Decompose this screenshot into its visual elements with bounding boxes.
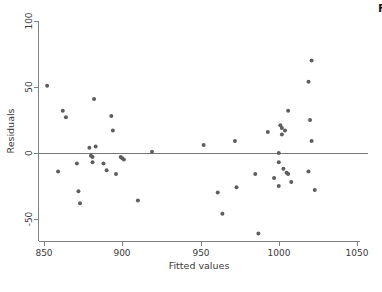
data-point (253, 172, 257, 176)
data-point (75, 162, 79, 166)
data-point (56, 169, 60, 173)
data-point (105, 168, 109, 172)
y-tick-label: 100 (24, 12, 34, 29)
data-point (313, 188, 317, 192)
data-point (266, 130, 270, 134)
data-point (109, 114, 113, 118)
data-point (289, 180, 293, 184)
data-point (283, 129, 287, 133)
data-point (150, 150, 154, 154)
data-point (136, 199, 140, 203)
x-axis-ticks (45, 242, 358, 247)
data-point (220, 212, 224, 216)
data-point (277, 151, 281, 155)
y-tick-label: 50 (24, 81, 34, 93)
data-point (91, 160, 95, 164)
residual-scatter-plot: -50050100 85090095010001050 Fitted value… (0, 0, 382, 292)
data-point (111, 129, 115, 133)
data-point (286, 172, 290, 176)
data-point (286, 109, 290, 113)
data-point (94, 144, 98, 148)
scatter-plot-canvas: -50050100 85090095010001050 Fitted value… (0, 0, 382, 292)
data-point (202, 143, 206, 147)
data-point (45, 84, 49, 88)
data-point (61, 109, 65, 113)
clipped-edge-glyph: F (378, 2, 382, 15)
y-axis-ticks (34, 22, 39, 220)
data-points-layer (45, 59, 317, 236)
y-tick-label: 0 (24, 150, 34, 156)
data-point (306, 80, 310, 84)
x-axis-tick-labels: 85090095010001050 (35, 248, 368, 258)
data-point (78, 201, 82, 205)
data-point (233, 139, 237, 143)
data-point (277, 160, 281, 164)
data-point (101, 162, 105, 166)
x-tick-label: 850 (35, 248, 52, 258)
data-point (87, 146, 91, 150)
data-point (91, 155, 95, 159)
x-tick-label: 900 (113, 248, 130, 258)
data-point (235, 185, 239, 189)
data-point (277, 184, 281, 188)
data-point (216, 191, 220, 195)
data-point (122, 158, 126, 162)
data-point (281, 167, 285, 171)
y-axis-title: Residuals (5, 108, 16, 153)
y-axis-tick-labels: -50050100 (24, 12, 34, 226)
x-tick-label: 1050 (346, 248, 369, 258)
data-point (76, 189, 80, 193)
x-tick-label: 950 (192, 248, 209, 258)
x-axis-title: Fitted values (169, 260, 230, 271)
data-point (308, 118, 312, 122)
y-tick-label: -50 (24, 211, 34, 226)
data-point (272, 176, 276, 180)
data-point (280, 126, 284, 130)
data-point (114, 172, 118, 176)
data-point (64, 115, 68, 119)
data-point (280, 133, 284, 137)
data-point (310, 59, 314, 63)
data-point (310, 139, 314, 143)
data-point (256, 232, 260, 236)
x-tick-label: 1000 (268, 248, 291, 258)
data-point (92, 97, 96, 101)
data-point (306, 169, 310, 173)
